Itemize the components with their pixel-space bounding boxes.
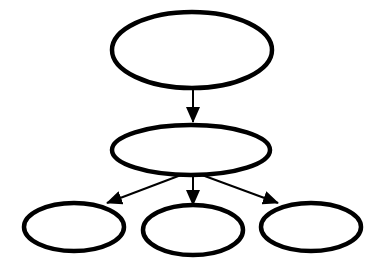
ellipse-node-root <box>112 12 272 88</box>
ellipse-node-child-right <box>261 203 361 251</box>
node-middle <box>112 125 270 175</box>
arrow-middle-to-child-left <box>107 175 181 203</box>
arrow-middle-to-child-right <box>202 175 278 203</box>
ellipse-node-middle <box>112 125 270 175</box>
node-child-center <box>143 205 243 255</box>
ellipse-node-child-center <box>143 205 243 255</box>
node-root <box>112 12 272 88</box>
nodes-layer <box>24 12 361 255</box>
ellipse-node-child-left <box>24 203 124 251</box>
hierarchy-diagram <box>0 0 388 277</box>
node-child-right <box>261 203 361 251</box>
diagram-svg <box>0 0 388 277</box>
node-child-left <box>24 203 124 251</box>
